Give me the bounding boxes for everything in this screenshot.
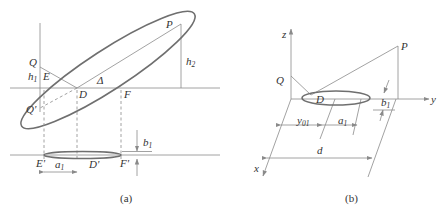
ellipse-b: [302, 91, 370, 105]
caption-b: (b): [345, 192, 358, 205]
label-p: P: [165, 18, 173, 30]
line-d-p-b: [311, 46, 398, 95]
label-z: z: [281, 28, 287, 40]
b1-arrow-top-b: [384, 80, 389, 93]
label-a1-b: a1: [338, 114, 347, 128]
label-f: F: [123, 88, 131, 100]
figure-a: P Q h1 E D F Δ h2 Q' E' a1 D' F' b1 (a): [10, 0, 220, 205]
label-d: D: [78, 88, 87, 100]
label-e-prime: E': [35, 157, 46, 169]
figure-b: z y x P Q D y01 a1 b1 d (b): [253, 28, 436, 205]
right-oblique-line: [368, 99, 396, 177]
label-a1: a1: [55, 158, 64, 172]
b1-arrow-bottom-b: [380, 110, 383, 121]
label-d-dim: d: [317, 144, 323, 156]
label-e: E: [42, 70, 50, 82]
line-q-d-b: [291, 76, 311, 95]
label-h1: h1: [28, 70, 37, 84]
label-d-prime: D': [88, 158, 100, 170]
caption-a: (a): [120, 192, 133, 205]
label-d-b: D: [315, 93, 324, 105]
diagram-canvas: P Q h1 E D F Δ h2 Q' E' a1 D' F' b1 (a): [0, 0, 439, 215]
label-delta: Δ: [96, 74, 103, 86]
label-x: x: [253, 162, 259, 174]
label-q-prime: Q': [26, 103, 37, 115]
label-q: Q: [29, 56, 37, 68]
x-axis: [263, 99, 291, 176]
label-h2: h2: [186, 55, 196, 69]
label-f-prime: F': [119, 157, 130, 169]
label-y01: y01: [296, 114, 309, 128]
label-b1: b1: [143, 136, 152, 150]
label-b1-b: b1: [381, 96, 390, 110]
label-y: y: [430, 93, 436, 105]
label-q-b: Q: [276, 74, 284, 86]
label-p-b: P: [400, 40, 408, 52]
